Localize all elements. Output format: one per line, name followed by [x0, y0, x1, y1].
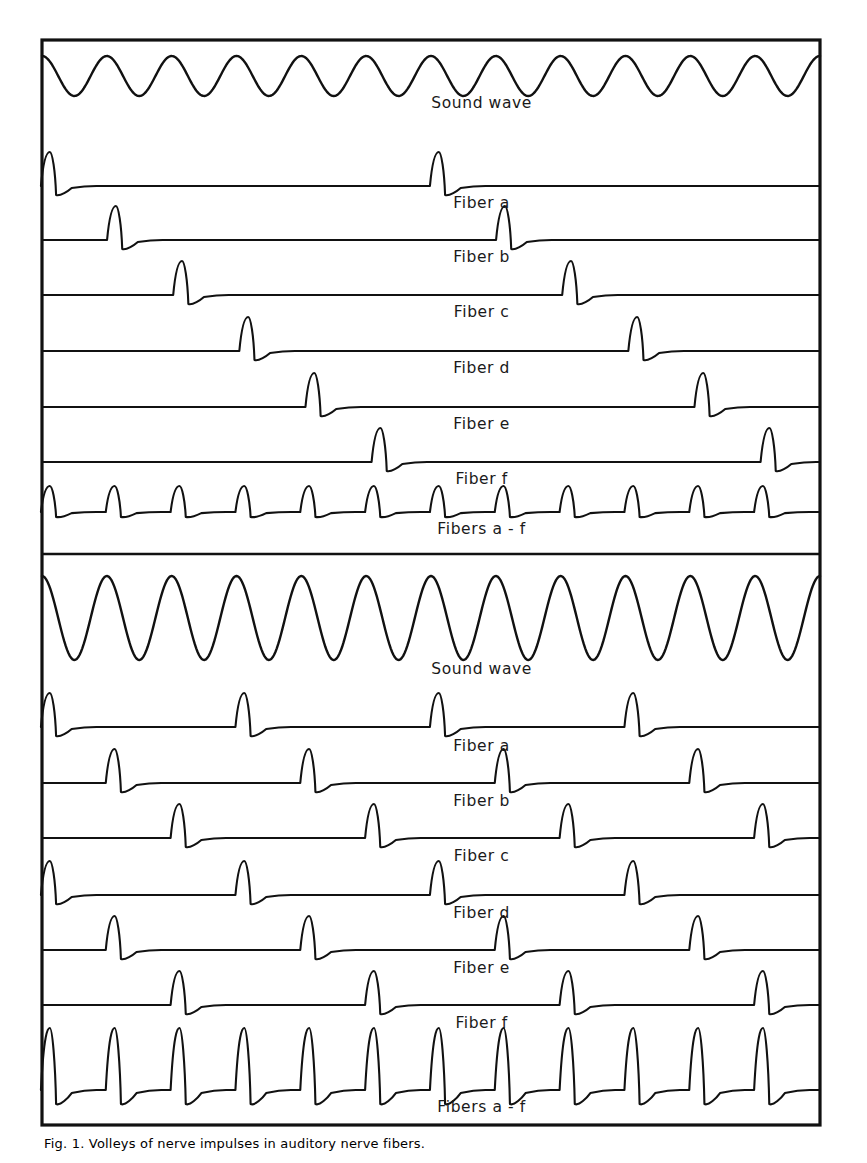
label-fibers-a-f-upper: Fibers a - f: [437, 520, 525, 538]
figure-caption: Fig. 1. Volleys of nerve impulses in aud…: [44, 1136, 824, 1151]
label-fiber-e-lower: Fiber e: [453, 959, 510, 977]
label-fiber-a-lower: Fiber a: [453, 737, 509, 755]
label-fiber-c-upper: Fiber c: [454, 303, 510, 321]
figure-root: Sound waveFiber aFiber bFiber cFiber dFi…: [0, 0, 867, 1163]
label-fiber-e-upper: Fiber e: [453, 415, 510, 433]
label-fiber-c-lower: Fiber c: [454, 847, 510, 865]
label-fiber-d-lower: Fiber d: [453, 904, 510, 922]
label-fiber-d-upper: Fiber d: [453, 359, 510, 377]
waveform-figure: Sound waveFiber aFiber bFiber cFiber dFi…: [0, 0, 867, 1163]
label-fiber-f-upper: Fiber f: [455, 470, 507, 488]
label-sound-wave-lower: Sound wave: [431, 660, 532, 678]
label-fiber-b-upper: Fiber b: [453, 248, 510, 266]
label-fibers-a-f-lower: Fibers a - f: [437, 1098, 525, 1116]
label-fiber-b-lower: Fiber b: [453, 792, 510, 810]
label-fiber-a-upper: Fiber a: [453, 194, 509, 212]
label-sound-wave-upper: Sound wave: [431, 94, 532, 112]
figure-frame: [42, 40, 820, 1125]
label-fiber-f-lower: Fiber f: [455, 1014, 507, 1032]
